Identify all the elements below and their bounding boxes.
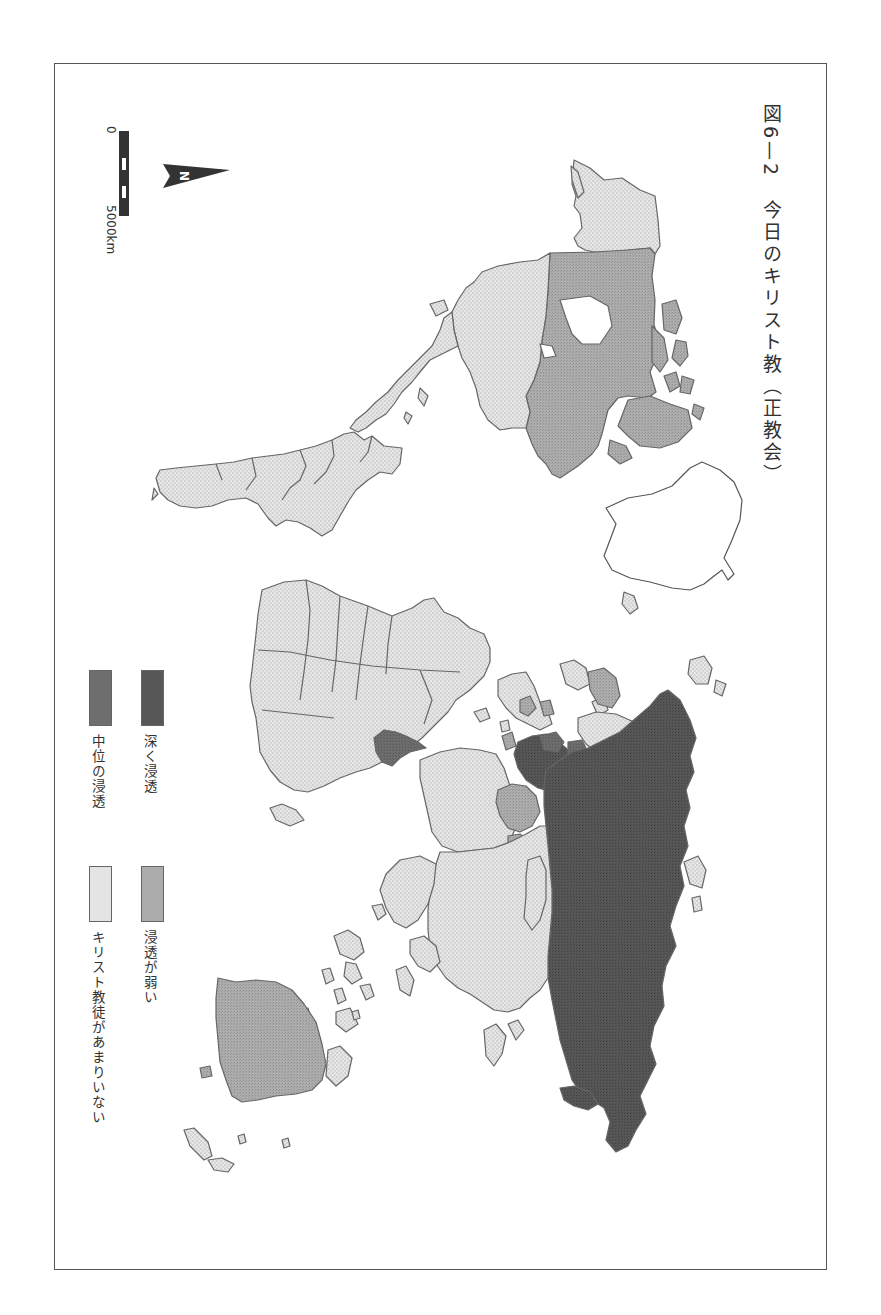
north-arrow: N: [163, 164, 230, 188]
scale-bar: [119, 131, 129, 216]
legend-label-deep: 深く浸透: [140, 734, 160, 794]
legend-swatch-weak: [141, 866, 164, 922]
legend-label-medium: 中位の浸透: [88, 734, 108, 809]
region-australia: [216, 978, 326, 1102]
north-america: [350, 160, 742, 614]
world-map: N: [0, 0, 881, 1315]
legend-swatch-few: [89, 866, 112, 922]
legend-label-few: キリスト教徒があまりいない: [88, 930, 108, 1125]
region-south-america: [156, 432, 402, 536]
region-russia: [544, 690, 696, 1152]
region-alaska: [572, 160, 660, 254]
south-america: [152, 432, 402, 536]
legend-label-weak: 浸透が弱い: [140, 930, 160, 1005]
scale-end-label: 5000km: [104, 205, 118, 254]
region-mexico-central-america: [350, 312, 458, 432]
scale-start-label: 0: [104, 126, 118, 134]
region-greenland: [604, 462, 742, 590]
oceania: [184, 930, 374, 1172]
legend-swatch-deep: [141, 670, 164, 726]
region-new-zealand: [184, 1128, 212, 1160]
north-arrow-icon: [163, 164, 230, 188]
legend-swatch-medium: [89, 670, 112, 726]
figure-title: 図6—2 今日のキリスト教（正教会）: [758, 104, 785, 486]
north-label: N: [177, 171, 191, 181]
